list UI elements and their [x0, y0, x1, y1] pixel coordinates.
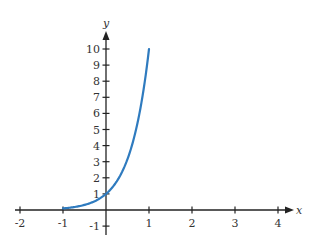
- y-tick-label: 10: [86, 43, 100, 56]
- x-tick-label: -1: [58, 217, 69, 230]
- x-axis-label: x: [296, 204, 303, 217]
- y-axis-label: y: [102, 17, 110, 30]
- ticks: [20, 49, 278, 226]
- x-tick-label: 2: [189, 217, 196, 230]
- axes: [15, 31, 294, 235]
- y-tick-label: 6: [93, 107, 100, 120]
- y-axis-arrow-icon: [103, 31, 110, 40]
- x-tick-label: 1: [146, 217, 153, 230]
- y-tick-label: 5: [93, 124, 100, 137]
- y-tick-label: 3: [93, 156, 100, 169]
- y-tick-label: 9: [93, 59, 100, 72]
- x-tick-label: 3: [232, 217, 239, 230]
- tick-labels: -2-11234-112345678910: [15, 43, 282, 233]
- y-tick-label: 7: [93, 91, 100, 104]
- y-tick-label: 2: [93, 172, 100, 185]
- x-tick-label: -2: [15, 217, 26, 230]
- x-tick-label: 4: [275, 217, 282, 230]
- y-tick-label: 4: [93, 140, 100, 153]
- y-tick-label: -1: [89, 220, 100, 233]
- y-tick-label: 8: [93, 75, 100, 88]
- x-axis-arrow-icon: [285, 207, 294, 214]
- exponential-chart: -2-11234-112345678910 x y: [0, 0, 320, 239]
